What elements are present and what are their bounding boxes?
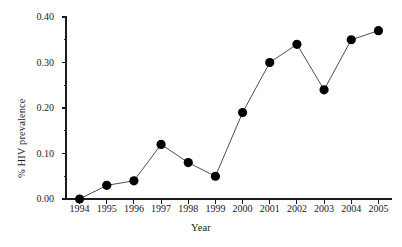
data-point-marker xyxy=(102,181,111,190)
data-point-marker xyxy=(75,194,84,203)
data-point-marker xyxy=(211,172,220,181)
data-point-marker xyxy=(292,40,301,49)
plot-area xyxy=(0,0,402,247)
data-point-markers xyxy=(75,26,383,204)
data-point-marker xyxy=(319,85,328,94)
data-point-marker xyxy=(129,176,138,185)
data-point-marker xyxy=(156,140,165,149)
chart-figure: % HIV prevalence Year 0.000.100.200.300.… xyxy=(0,0,402,247)
data-point-marker xyxy=(265,58,274,67)
data-point-marker xyxy=(238,108,247,117)
data-point-marker xyxy=(374,26,383,35)
data-point-marker xyxy=(184,158,193,167)
data-point-marker xyxy=(347,35,356,44)
series-line xyxy=(80,31,379,199)
data-line-series xyxy=(80,31,379,199)
axis-spines xyxy=(66,16,392,199)
